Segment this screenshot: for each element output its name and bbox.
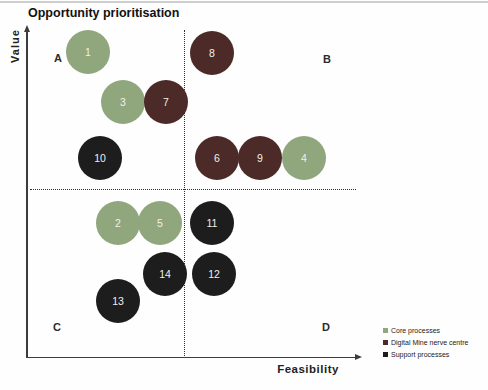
bubble-4: 4 [282, 136, 326, 180]
legend-label: Core processes [391, 327, 440, 335]
bubble-12: 12 [192, 252, 236, 296]
legend-item-2: Digital Mine nerve centre [383, 339, 468, 347]
bubble-2: 2 [96, 201, 140, 245]
legend-item-1: Core processes [383, 327, 468, 335]
legend-label: Support processes [391, 351, 449, 359]
legend: Core processesDigital Mine nerve centreS… [383, 327, 468, 363]
bubble-13: 13 [96, 279, 140, 323]
bubble-8: 8 [190, 31, 234, 75]
bubble-10: 10 [78, 136, 122, 180]
legend-label: Digital Mine nerve centre [391, 339, 468, 347]
opportunity-prioritisation-chart: Opportunity prioritisation Value Feasibi… [0, 0, 488, 390]
bubble-11: 11 [190, 201, 234, 245]
bubble-5: 5 [138, 201, 182, 245]
bubble-9: 9 [238, 136, 282, 180]
legend-swatch-icon [383, 328, 388, 333]
bubble-14: 14 [143, 252, 187, 296]
legend-swatch-icon [383, 352, 388, 357]
bubble-1: 1 [66, 30, 110, 74]
legend-swatch-icon [383, 340, 388, 345]
legend-item-3: Support processes [383, 351, 468, 359]
bubble-6: 6 [195, 136, 239, 180]
bubble-7: 7 [144, 80, 188, 124]
bubble-3: 3 [101, 80, 145, 124]
